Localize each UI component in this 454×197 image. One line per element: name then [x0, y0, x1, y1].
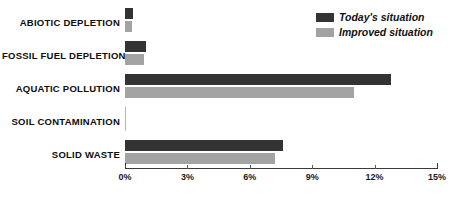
zero-value-marker: [125, 107, 126, 131]
bar-improved[interactable]: [125, 87, 354, 98]
axis-tick: [187, 165, 188, 169]
bar-improved[interactable]: [125, 54, 144, 65]
category-label: SOLID WASTE: [2, 149, 120, 160]
axis-tick: [250, 165, 251, 169]
x-axis-line: [125, 168, 437, 169]
category-label: AQUATIC POLLUTION: [2, 83, 120, 94]
axis-tick-label: 3%: [181, 172, 194, 182]
category-label: FOSSIL FUEL DEPLETION: [2, 50, 120, 61]
plot-area: [125, 8, 437, 168]
axis-end-cap: [437, 163, 438, 169]
category-label: SOIL CONTAMINATION: [2, 116, 120, 127]
bar-improved[interactable]: [125, 153, 275, 164]
bar-today[interactable]: [125, 8, 133, 19]
axis-tick: [375, 165, 376, 169]
axis-tick-label: 0%: [118, 172, 131, 182]
category-label: ABIOTIC DEPLETION: [2, 17, 120, 28]
bar-chart: Today's situation Improved situation ABI…: [0, 0, 454, 197]
axis-end-cap: [125, 163, 126, 169]
category-axis-labels: ABIOTIC DEPLETIONFOSSIL FUEL DEPLETIONAQ…: [0, 8, 120, 168]
axis-tick-label: 6%: [243, 172, 256, 182]
bar-improved[interactable]: [125, 21, 132, 32]
bar-today[interactable]: [125, 140, 283, 151]
axis-tick-label: 12%: [366, 172, 384, 182]
axis-tick-label: 9%: [306, 172, 319, 182]
bar-today[interactable]: [125, 41, 146, 52]
axis-tick-label: 15%: [428, 172, 446, 182]
bar-today[interactable]: [125, 74, 391, 85]
axis-tick: [312, 165, 313, 169]
